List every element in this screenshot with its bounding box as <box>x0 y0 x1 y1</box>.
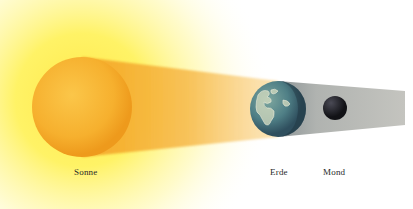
sun <box>32 57 132 157</box>
sun-label: Sonne <box>74 167 98 177</box>
moon-label: Mond <box>323 167 345 177</box>
lunar-eclipse-diagram <box>0 0 413 209</box>
earth <box>250 81 306 137</box>
earth-label: Erde <box>270 167 288 177</box>
moon <box>323 96 347 120</box>
